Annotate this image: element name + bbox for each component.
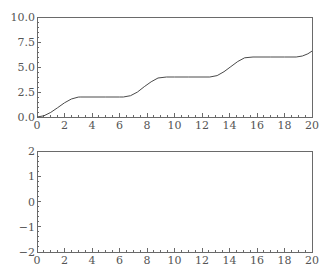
x-tick-label: 6 [116,119,123,132]
y-tick-label: 0 [28,196,35,209]
x-tick-label: 2 [61,254,68,267]
x-tick-label: 10 [168,119,182,132]
x-tick-label: 2 [61,119,68,132]
x-tick-label: 16 [250,254,264,267]
x-tick-label: 8 [144,254,151,267]
y-tick-label: 2 [28,145,35,158]
x-tick-label: 20 [305,119,319,132]
y-tick-label: 2.5 [18,86,36,99]
x-tick-label: 4 [89,119,96,132]
x-tick-label: 16 [250,119,264,132]
x-tick-label: 18 [278,254,292,267]
y-tick-label: 10.0 [11,11,36,24]
figure: 024681012141618200.02.55.07.510.0 024681… [0,0,333,278]
x-tick-label: 4 [89,254,96,267]
x-tick-label: 8 [144,119,151,132]
y-tick-label: 7.5 [18,36,36,49]
x-tick-label: 18 [278,119,292,132]
x-tick-label: 14 [223,254,237,267]
x-tick-label: 12 [195,254,209,267]
top-plot: 024681012141618200.02.55.07.510.0 [11,11,320,132]
series-line-staircase [37,51,312,117]
plot-frame [37,151,312,252]
x-tick-label: 6 [116,254,123,267]
y-tick-label: 5.0 [18,61,36,74]
x-tick-label: 12 [195,119,209,132]
y-tick-label: 1 [28,170,35,183]
x-tick-label: 14 [223,119,237,132]
y-tick-label: −1 [19,221,35,234]
plot-frame [37,17,312,117]
x-tick-label: 20 [305,254,319,267]
y-tick-label: 0.0 [18,111,36,124]
figure-canvas: 024681012141618200.02.55.07.510.0 024681… [0,0,333,278]
y-tick-label: −2 [19,246,35,259]
bottom-plot: 02468101214161820−2−1012 [19,145,319,267]
x-tick-label: 10 [168,254,182,267]
